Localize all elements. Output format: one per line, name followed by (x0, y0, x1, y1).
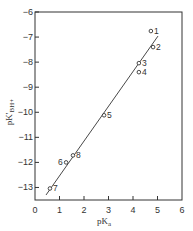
x-axis-label: pKa (97, 216, 112, 228)
data-point-label: 8 (76, 150, 81, 160)
data-point-marker (48, 187, 52, 191)
data-point-label: 1 (154, 26, 159, 36)
x-tick-label: 6 (179, 205, 184, 215)
scatter-chart: 0123456 −6−7−8−9−10−11−12−13 12345678 pK… (0, 0, 193, 231)
data-point-label: 7 (53, 183, 58, 193)
y-tick-label: −12 (18, 157, 33, 167)
y-tick-label: −8 (23, 57, 33, 67)
data-point-label: 2 (156, 42, 161, 52)
y-tick-label: −6 (23, 7, 33, 17)
y-tick-label: −10 (18, 107, 33, 117)
y-tick-label: −7 (23, 32, 33, 42)
y-tick-label: −13 (18, 182, 33, 192)
x-tick-label: 3 (106, 205, 111, 215)
x-tick-label: 4 (130, 205, 135, 215)
x-tick-label: 5 (155, 205, 160, 215)
data-point-label: 6 (58, 157, 63, 167)
y-tick-label: −9 (23, 82, 33, 92)
data-point-marker (151, 45, 155, 49)
data-point-marker (137, 61, 141, 65)
data-point-marker (64, 161, 68, 165)
x-tick-label: 1 (57, 205, 62, 215)
data-point-label: 4 (142, 67, 147, 77)
y-axis-label: pK'BH+ (4, 99, 16, 125)
data-point-marker (149, 29, 153, 33)
x-tick-label: 0 (32, 205, 37, 215)
y-tick-label: −11 (18, 132, 33, 142)
data-point-marker (71, 154, 75, 158)
x-tick-label: 2 (81, 205, 86, 215)
y-axis-ticks: −6−7−8−9−10−11−12−13 (18, 7, 39, 192)
data-point-marker (137, 70, 141, 74)
data-point-label: 5 (107, 110, 112, 120)
x-axis-ticks: 0123456 (32, 196, 184, 215)
data-point-marker (102, 113, 106, 117)
